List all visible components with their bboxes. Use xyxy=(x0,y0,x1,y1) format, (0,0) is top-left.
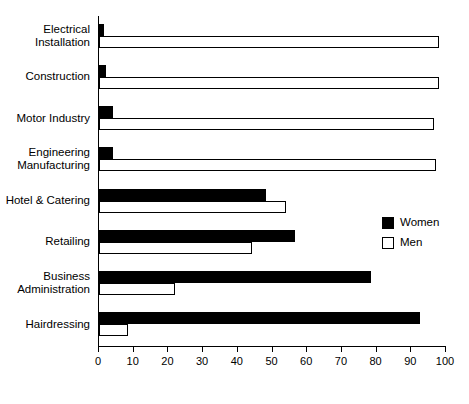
bar-men xyxy=(99,36,439,48)
x-axis-tick xyxy=(237,346,238,352)
bar-men xyxy=(99,283,175,295)
category-label: ElectricalInstallation xyxy=(0,23,90,49)
category-label-line: Manufacturing xyxy=(0,159,90,172)
bar-men xyxy=(99,201,286,213)
bar-women xyxy=(99,24,104,36)
bar-women xyxy=(99,106,113,118)
category-label: BusinessAdministration xyxy=(0,270,90,296)
category-label-line: Installation xyxy=(0,36,90,49)
category-label-line: Administration xyxy=(0,283,90,296)
bar-chart: 0102030405060708090100 ElectricalInstall… xyxy=(0,0,469,404)
category-label: Construction xyxy=(0,70,90,83)
x-axis-tick-label: 50 xyxy=(257,355,287,367)
x-axis-tick xyxy=(410,346,411,352)
legend-item-men[interactable]: Men xyxy=(382,236,462,249)
bar-women xyxy=(99,147,113,159)
category-label: EngineeringManufacturing xyxy=(0,146,90,172)
x-axis-tick xyxy=(133,346,134,352)
legend-item-women[interactable]: Women xyxy=(382,216,462,229)
bar-women xyxy=(99,230,295,242)
bar-men xyxy=(99,118,434,130)
legend-label-men: Men xyxy=(400,236,422,249)
category-label: Hotel & Catering xyxy=(0,194,90,207)
category-label: Hairdressing xyxy=(0,318,90,331)
x-axis-tick xyxy=(202,346,203,352)
x-axis-tick-label: 40 xyxy=(222,355,252,367)
x-axis-tick xyxy=(306,346,307,352)
x-axis-tick-label: 100 xyxy=(430,355,460,367)
legend: Women Men xyxy=(382,216,462,256)
bar-men xyxy=(99,77,439,89)
x-axis-tick xyxy=(445,346,446,352)
category-label-line: Engineering xyxy=(0,146,90,159)
x-axis-tick-label: 0 xyxy=(83,355,113,367)
x-axis-tick xyxy=(341,346,342,352)
x-axis-tick-label: 80 xyxy=(361,355,391,367)
bar-women xyxy=(99,312,420,324)
category-label-line: Hairdressing xyxy=(0,318,90,331)
category-label: Retailing xyxy=(0,235,90,248)
bar-men xyxy=(99,324,128,336)
x-axis-tick xyxy=(376,346,377,352)
category-label-line: Hotel & Catering xyxy=(0,194,90,207)
category-label-line: Retailing xyxy=(0,235,90,248)
x-axis-tick xyxy=(98,346,99,352)
bar-men xyxy=(99,242,252,254)
bar-women xyxy=(99,271,371,283)
category-label-line: Electrical xyxy=(0,23,90,36)
plot-area xyxy=(98,16,445,346)
x-axis-tick xyxy=(167,346,168,352)
x-axis-tick-label: 60 xyxy=(291,355,321,367)
x-axis-tick-label: 30 xyxy=(187,355,217,367)
x-axis-tick-label: 10 xyxy=(118,355,148,367)
bar-women xyxy=(99,189,266,201)
category-label-line: Business xyxy=(0,270,90,283)
category-label: Motor Industry xyxy=(0,112,90,125)
bar-men xyxy=(99,159,436,171)
x-axis-tick-label: 90 xyxy=(395,355,425,367)
bar-women xyxy=(99,65,106,77)
legend-label-women: Women xyxy=(400,216,439,229)
category-label-line: Construction xyxy=(0,70,90,83)
x-axis-tick xyxy=(272,346,273,352)
x-axis-tick-label: 70 xyxy=(326,355,356,367)
category-label-line: Motor Industry xyxy=(0,112,90,125)
legend-swatch-women-icon xyxy=(382,217,394,229)
x-axis-tick-label: 20 xyxy=(152,355,182,367)
legend-swatch-men-icon xyxy=(382,237,394,249)
